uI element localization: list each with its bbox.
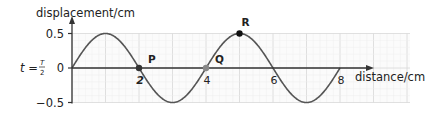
y-tick-label: −0.5 xyxy=(36,96,64,110)
point-label-r: R xyxy=(242,16,250,28)
x-tick-label: 6 xyxy=(271,74,278,87)
point-label-q: Q xyxy=(215,53,224,65)
time-label-numerator: T xyxy=(40,59,45,67)
x-tick-label: 4 xyxy=(204,74,211,87)
y-tick-label: 0 xyxy=(57,61,64,75)
point-p xyxy=(136,65,142,71)
y-tick-label: 0.5 xyxy=(46,27,64,41)
time-label: t = T 2 xyxy=(20,59,45,77)
point-r xyxy=(236,30,242,36)
wave-chart: PQR displacement/cm distance/cm t = T 2 … xyxy=(0,0,425,114)
point-label-p: P xyxy=(148,53,156,65)
y-axis-label: displacement/cm xyxy=(36,6,135,20)
time-label-denominator: 2 xyxy=(40,69,44,77)
point-q xyxy=(203,65,209,71)
x-tick-label: 8 xyxy=(338,74,345,87)
x-axis-label: distance/cm xyxy=(355,70,425,84)
x-tick-label: 2 xyxy=(136,74,144,87)
time-label-t: t = xyxy=(20,61,38,75)
